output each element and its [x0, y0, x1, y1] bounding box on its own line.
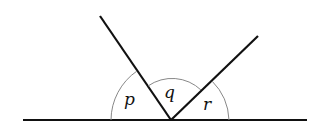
right-ray: [171, 36, 258, 120]
arc-r: [212, 81, 229, 120]
label-q: q: [164, 82, 175, 102]
label-p: p: [124, 89, 135, 109]
angle-diagram: p q r: [0, 0, 319, 138]
label-r: r: [203, 94, 212, 114]
left-ray: [100, 16, 171, 120]
